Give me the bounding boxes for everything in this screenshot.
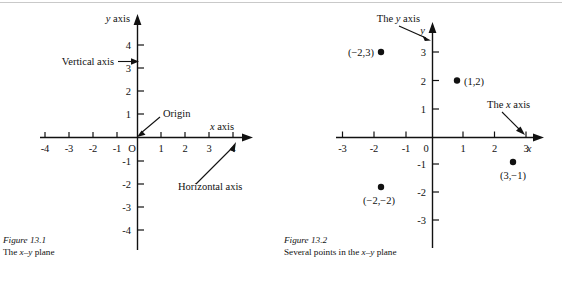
x-tick-label: -1 xyxy=(113,143,122,154)
y-axis-ticks xyxy=(433,52,440,220)
origin-letter: 0 xyxy=(423,143,428,154)
y-tick-label: 3 xyxy=(126,63,131,74)
y-tick-label: -1 xyxy=(122,156,131,167)
x-tick-label: 3 xyxy=(206,143,211,154)
y-tick-label: 4 xyxy=(126,40,132,51)
x-axis xyxy=(336,134,544,142)
data-point-label: (3,−1) xyxy=(500,170,527,182)
data-point xyxy=(378,49,384,55)
y-tick-label: 1 xyxy=(126,109,131,120)
x-tick-label: 2 xyxy=(492,143,497,154)
x-tick-label: 1 xyxy=(460,143,465,154)
data-points: (−2,3) (1,2) (3,−1) (−2,−2) xyxy=(348,47,527,207)
data-point-label: (−2,−2) xyxy=(363,195,395,207)
y-tick-labels: 3 2 1 -1 -2 -3 xyxy=(417,47,426,226)
data-point-label: (−2,3) xyxy=(348,47,375,59)
figure-13-2-caption-text: Several points in the x–y plane xyxy=(284,246,397,258)
x-tick-label: -4 xyxy=(41,143,50,154)
the-x-axis-annotation-label: The x axis xyxy=(487,99,530,110)
x-axis-label: x axis xyxy=(209,121,234,132)
x-tick-label: -3 xyxy=(65,143,74,154)
horizontal-axis-annotation-label: Horizontal axis xyxy=(178,181,242,192)
y-tick-label: 2 xyxy=(126,86,131,97)
y-tick-label: -3 xyxy=(122,202,131,213)
figure-13-2-caption-number: Figure 13.2 xyxy=(284,234,397,246)
y-tick-label: 1 xyxy=(421,104,426,115)
figure-13-2: -3 -2 -1 1 2 3 0 3 2 1 -1 -2 -3 y x xyxy=(281,0,562,281)
the-x-axis-annotation: The x axis xyxy=(487,99,530,135)
figure-13-1-caption-number: Figure 13.1 xyxy=(3,234,55,246)
y-tick-label: 2 xyxy=(421,76,426,87)
vertical-axis-annotation-label: Vertical axis xyxy=(62,56,114,67)
x-axis xyxy=(40,134,253,142)
x-tick-label: -2 xyxy=(370,143,379,154)
data-point-label: (1,2) xyxy=(464,76,485,88)
origin-annotation: Origin xyxy=(137,108,191,137)
y-tick-label: 3 xyxy=(421,47,426,58)
y-axis xyxy=(429,22,437,248)
x-tick-label: 2 xyxy=(182,143,187,154)
figure-13-1-caption-text: The x–y plane xyxy=(3,246,55,258)
data-point xyxy=(378,184,384,190)
figure-page: -4 -3 -2 -1 1 2 3 4 O 4 3 2 1 -1 -2 -3 -… xyxy=(0,0,562,281)
y-tick-label: -3 xyxy=(417,215,426,226)
x-tick-labels: -4 -3 -2 -1 1 2 3 4 xyxy=(41,143,237,154)
origin-annotation-label: Origin xyxy=(163,108,191,119)
y-axis-label: y xyxy=(419,25,425,36)
origin-letter: O xyxy=(128,143,136,154)
y-tick-label: -1 xyxy=(417,159,426,170)
x-tick-label: -3 xyxy=(338,143,347,154)
x-tick-label: -1 xyxy=(402,143,411,154)
x-axis-ticks xyxy=(343,132,527,138)
figure-13-2-caption: Figure 13.2 Several points in the x–y pl… xyxy=(284,234,397,258)
y-tick-label: -2 xyxy=(417,187,426,198)
x-axis-label: x xyxy=(526,143,532,154)
x-tick-labels: -3 -2 -1 1 2 3 xyxy=(338,143,529,154)
y-tick-label: -2 xyxy=(122,179,131,190)
y-tick-label: -4 xyxy=(122,225,131,236)
figure-13-1: -4 -3 -2 -1 1 2 3 4 O 4 3 2 1 -1 -2 -3 -… xyxy=(0,0,281,281)
data-point xyxy=(454,77,460,83)
y-axis-label: y axis xyxy=(105,13,130,24)
y-axis xyxy=(134,14,142,250)
data-point xyxy=(510,159,516,165)
x-tick-label: 1 xyxy=(158,143,163,154)
figure-13-1-caption: Figure 13.1 The x–y plane xyxy=(3,234,55,258)
x-tick-label: -2 xyxy=(89,143,98,154)
the-y-axis-annotation-label: The y axis xyxy=(377,13,420,24)
